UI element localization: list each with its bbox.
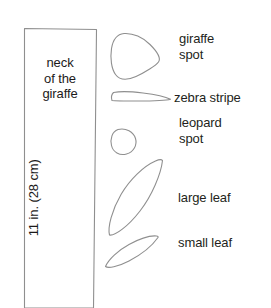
giraffe-spot-shape [111,33,159,79]
small-leaf-shape [106,236,159,267]
label-zebra-stripe: zebra stripe [174,90,241,106]
label-small-leaf: small leaf [178,235,232,251]
large-leaf-shape [109,160,162,235]
pattern-template-page: neck of the giraffe 11 in. (28 cm) giraf… [0,0,271,308]
neck-label-line-1: neck [46,55,73,70]
neck-label-line-3: giraffe [42,86,77,101]
label-giraffe-spot-line-2: spot [179,47,203,62]
label-leopard-spot-line-2: spot [179,131,203,146]
leopard-spot-shape [111,129,136,154]
label-giraffe-spot-line-1: giraffe [179,31,214,46]
zebra-stripe-shape [112,92,171,101]
label-leopard-spot-line-1: leopard [179,115,222,130]
label-large-leaf: large leaf [178,190,230,206]
neck-piece-label: neck of the giraffe [31,55,89,102]
label-giraffe-spot: giraffe spot [179,31,214,62]
label-leopard-spot: leopard spot [179,115,222,146]
neck-dimension-label: 11 in. (28 cm) [26,148,42,248]
neck-label-line-2: of the [44,71,76,86]
